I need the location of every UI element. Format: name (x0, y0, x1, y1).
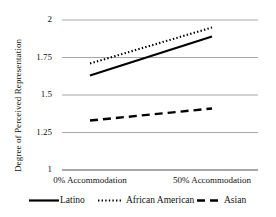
y-tick-label-1: 1 (16, 164, 52, 174)
y-tick-label-2: 2 (16, 14, 52, 24)
y-tick-label-1-25: 1.25 (16, 127, 52, 137)
legend-item-asian: Asian (224, 195, 246, 205)
chart-container: Degree of Perceived Representation 2 1.7… (0, 0, 276, 217)
y-tick-label-1-5: 1.5 (16, 89, 52, 99)
series-line-asian (90, 109, 212, 121)
x-tick-label-0-percent: 0% Accommodation (40, 175, 140, 185)
y-tick-label-1-75: 1.75 (16, 52, 52, 62)
legend-item-latino: Latino (60, 195, 85, 205)
series-line-african-american (90, 28, 212, 64)
legend-item-african-american: African American (126, 195, 194, 205)
x-tick-label-50-percent: 50% Accommodation (160, 175, 264, 185)
series-line-latino (90, 37, 212, 76)
